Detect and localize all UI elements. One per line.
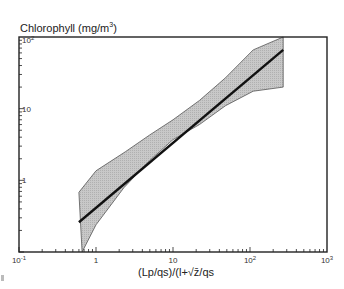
regression-line — [79, 50, 283, 222]
fit-line — [79, 50, 283, 222]
edge-artifact — [1, 275, 4, 281]
x-tick-label: 102 — [244, 255, 257, 265]
chart-plot: 10-1110102103110102 — [0, 0, 344, 289]
y-tick-label: 1 — [22, 176, 27, 185]
y-tick-label: 102 — [22, 35, 35, 45]
confidence-band — [79, 37, 283, 252]
band-area — [79, 37, 283, 252]
x-tick-label: 10-1 — [12, 255, 27, 265]
x-tick-label: 1 — [94, 256, 99, 265]
y-tick-label: 10 — [22, 105, 31, 114]
x-tick-label: 10 — [169, 256, 178, 265]
tick-labels: 10-1110102103110102 — [12, 35, 334, 265]
x-tick-label: 103 — [321, 255, 334, 265]
x-axis-label: (Lp/qs)/(l+√z̄/qs — [138, 266, 214, 278]
